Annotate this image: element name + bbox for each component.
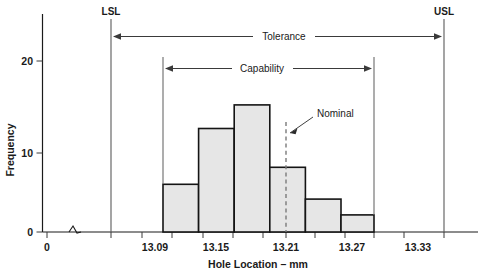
nominal-pointer-line xyxy=(290,117,313,133)
capability-arrowhead-right-icon xyxy=(364,65,372,72)
histogram-chart: 0 10 20 Frequency 0 13.09 xyxy=(0,0,484,274)
histogram-bars xyxy=(163,105,374,232)
tolerance-annotation: Tolerance xyxy=(113,31,442,42)
y-axis: 0 10 20 Frequency xyxy=(4,14,43,238)
tolerance-arrowhead-left-icon xyxy=(113,33,121,40)
x-tick-label-13-33: 13.33 xyxy=(405,241,431,253)
bar-bin-4 xyxy=(270,167,306,232)
x-tick-label-13-27: 13.27 xyxy=(339,241,365,253)
x-tick-label-13-21: 13.21 xyxy=(273,241,299,253)
tolerance-arrowhead-right-icon xyxy=(434,33,442,40)
lsl-label: LSL xyxy=(102,6,121,17)
bar-bin-1 xyxy=(163,184,199,232)
x-tick-label-0: 0 xyxy=(44,241,50,253)
x-tick-label-13-15: 13.15 xyxy=(203,241,229,253)
usl-label: USL xyxy=(434,6,454,17)
bar-bin-6 xyxy=(341,215,374,232)
y-axis-title: Frequency xyxy=(4,123,16,176)
bar-bin-2 xyxy=(199,129,235,233)
nominal-arrowhead-icon xyxy=(290,129,297,135)
bar-bin-5 xyxy=(305,199,341,232)
y-tick-label-10: 10 xyxy=(21,147,33,159)
y-tick-label-0: 0 xyxy=(27,226,33,238)
capability-arrowhead-left-icon xyxy=(165,65,173,72)
chart-canvas: 0 10 20 Frequency 0 13.09 xyxy=(0,0,484,274)
nominal-label: Nominal xyxy=(317,108,354,119)
tolerance-label: Tolerance xyxy=(262,31,306,42)
bar-bin-3 xyxy=(234,105,270,232)
capability-label: Capability xyxy=(240,63,284,74)
y-tick-label-20: 20 xyxy=(21,55,33,67)
x-axis-title: Hole Location – mm xyxy=(208,258,308,270)
x-tick-label-13-09: 13.09 xyxy=(142,241,168,253)
